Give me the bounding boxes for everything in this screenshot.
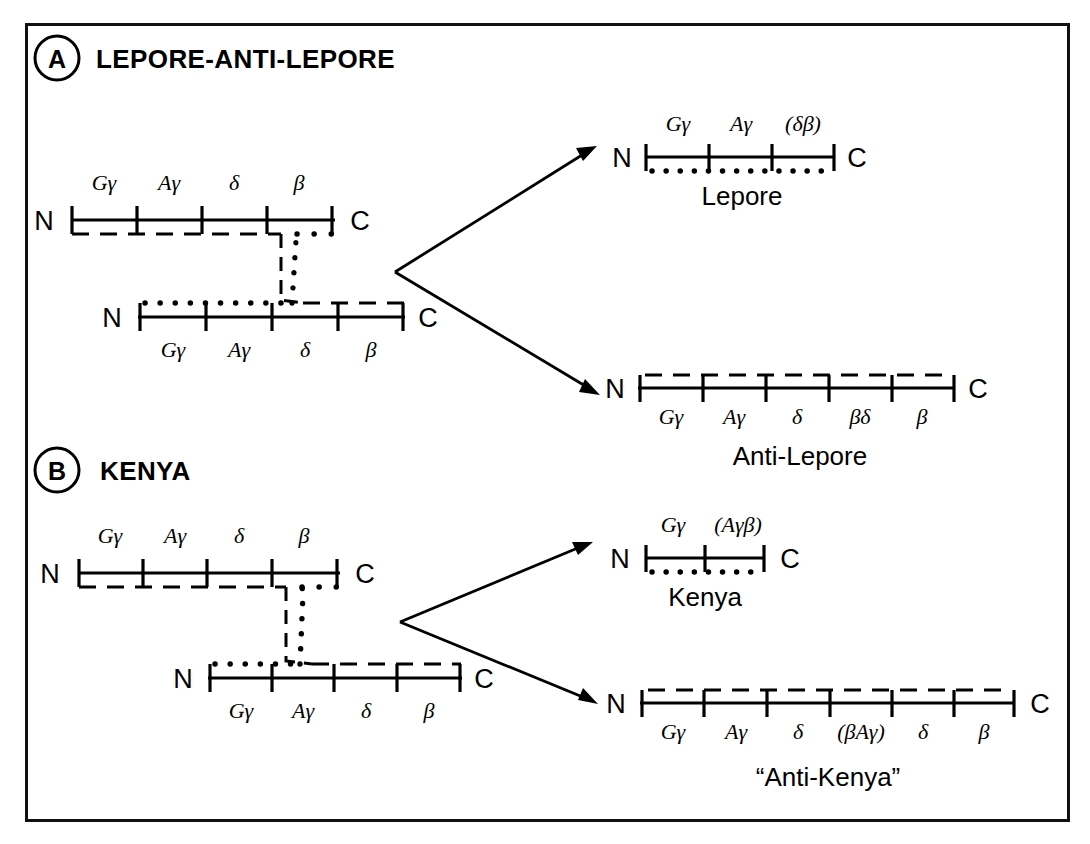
gene-label: Gγ	[659, 404, 685, 429]
gene-label: δ	[793, 719, 804, 744]
panel-A-badge: A	[35, 36, 79, 80]
panel-B-badge: B	[35, 448, 79, 492]
product-kenya: N C Gγ (Aγβ) Kenya	[610, 512, 800, 612]
c-terminus-label: C	[780, 544, 800, 574]
product-name: Kenya	[668, 582, 742, 612]
gene-label: Gγ	[161, 337, 187, 362]
panel-B-arrows	[400, 542, 598, 704]
c-terminus-label: C	[968, 374, 988, 404]
panel-B-badge-letter: B	[48, 457, 66, 485]
gene-label: β	[423, 698, 435, 723]
gene-label: δ	[792, 404, 803, 429]
gene-label: Aγ	[723, 719, 748, 744]
product-anti-kenya: N C Gγ Aγ δ (βAγ) δ β “Anti-Kenya”	[606, 689, 1050, 792]
gene-label: Gγ	[98, 523, 124, 548]
gene-label: (βAγ)	[837, 719, 885, 744]
product-anti-lepore: N C Gγ Aγ δ βδ β Anti-Lepore	[605, 374, 988, 471]
gene-label: Gγ	[666, 111, 692, 136]
gene-label: Gγ	[229, 698, 255, 723]
c-terminus-label: C	[350, 206, 370, 236]
gene-label: Aγ	[290, 698, 315, 723]
gene-label: β	[298, 523, 310, 548]
c-terminus-label: C	[1030, 689, 1050, 719]
product-name: Anti-Lepore	[733, 441, 867, 471]
n-terminus-label: N	[173, 664, 193, 694]
c-terminus-label: C	[418, 303, 438, 333]
panel-A-title: LEPORE-ANTI-LEPORE	[96, 44, 395, 74]
gene-label: Aγ	[721, 404, 746, 429]
c-terminus-label: C	[474, 664, 494, 694]
gene-label: δ	[229, 170, 240, 195]
gene-label: Gγ	[92, 170, 118, 195]
gene-label: δ	[300, 337, 311, 362]
gene-label: Gγ	[661, 512, 687, 537]
diagram-svg: A LEPORE-ANTI-LEPORE N C Gγ Aγ δ	[0, 0, 1090, 844]
product-name: “Anti-Kenya”	[756, 762, 901, 792]
gene-label: Aγ	[226, 337, 251, 362]
product-lepore: N C Gγ Aγ (δβ) Lepore	[612, 111, 867, 211]
n-terminus-label: N	[40, 559, 60, 589]
gene-label: βδ	[848, 404, 871, 429]
panel-A-badge-letter: A	[48, 45, 66, 73]
panel-A: A LEPORE-ANTI-LEPORE N C Gγ Aγ δ	[34, 36, 988, 471]
n-terminus-label: N	[612, 143, 632, 173]
c-terminus-label: C	[355, 559, 375, 589]
n-terminus-label: N	[610, 544, 630, 574]
n-terminus-label: N	[102, 303, 122, 333]
c-terminus-label: C	[847, 143, 867, 173]
gene-label: β	[365, 337, 377, 362]
gene-label: δ	[361, 698, 372, 723]
gene-label: (Aγβ)	[714, 512, 762, 537]
figure-canvas: A LEPORE-ANTI-LEPORE N C Gγ Aγ δ	[0, 0, 1090, 844]
gene-label: δ	[234, 523, 245, 548]
panel-B-crossover	[286, 587, 312, 664]
gene-label: Aγ	[728, 111, 753, 136]
gene-label: β	[978, 719, 990, 744]
gene-label: Gγ	[661, 719, 687, 744]
gene-label: Aγ	[162, 523, 187, 548]
panel-B-parent-upper: N C Gγ Aγ δ β	[40, 523, 375, 589]
gene-label: (δβ)	[785, 111, 821, 136]
panel-A-crossover	[281, 234, 303, 303]
gene-label: Aγ	[156, 170, 181, 195]
panel-B-title: KENYA	[100, 456, 191, 486]
n-terminus-label: N	[605, 374, 625, 404]
panel-A-parent-lower: N C Gγ Aγ δ β	[102, 303, 438, 362]
panel-A-parent-upper: N C Gγ Aγ δ β	[34, 170, 370, 236]
n-terminus-label: N	[606, 689, 626, 719]
panel-A-arrows	[395, 146, 600, 395]
gene-label: δ	[918, 719, 929, 744]
panel-B: B KENYA N C Gγ Aγ δ β	[35, 448, 1050, 792]
product-name: Lepore	[702, 181, 783, 211]
panel-B-parent-lower: N C Gγ Aγ δ β	[173, 664, 494, 723]
n-terminus-label: N	[34, 206, 54, 236]
gene-label: β	[916, 404, 928, 429]
gene-label: β	[293, 170, 305, 195]
